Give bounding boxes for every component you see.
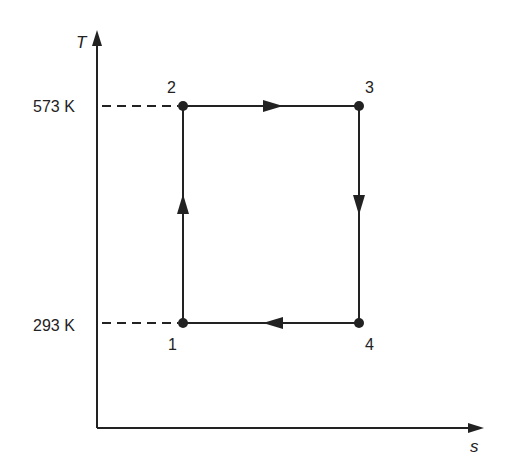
arrow-down-icon [353,195,365,215]
tick-label-293k: 293 K [33,317,75,334]
state-point-1 [178,318,188,328]
y-axis-arrowhead-icon [92,30,102,46]
state-point-4 [354,318,364,328]
x-axis-label: s [470,437,479,456]
point-label-3: 3 [365,79,374,96]
y-axis-label: T [76,33,88,52]
point-label-2: 2 [167,79,176,96]
arrow-left-icon [263,317,283,329]
ts-diagram: T s 573 K 293 K 1 2 3 4 [0,0,508,474]
tick-label-573k: 573 K [33,98,75,115]
arrow-right-icon [263,100,283,112]
x-axis-arrowhead-icon [468,423,484,433]
state-point-2 [178,101,188,111]
point-label-4: 4 [365,336,374,353]
state-point-3 [354,101,364,111]
arrow-up-icon [177,194,189,214]
point-label-1: 1 [168,336,177,353]
